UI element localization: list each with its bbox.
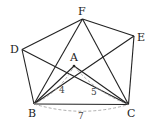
geometry-diagram: 457 ABCDEF	[0, 0, 152, 128]
segment-AC	[74, 66, 129, 105]
segment-DB	[22, 50, 34, 105]
point-label-c: C	[127, 107, 135, 120]
segment-BC	[34, 104, 129, 105]
length-label-BC: 7	[78, 111, 84, 121]
solid-segments	[22, 19, 134, 105]
point-a-dot	[73, 65, 76, 68]
point-label-a: A	[69, 51, 79, 64]
segment-AB	[34, 66, 74, 104]
dashed-length-arcs: 457	[34, 66, 129, 121]
length-label-AC: 5	[91, 87, 97, 97]
point-label-b: B	[28, 107, 36, 120]
segment-EC	[129, 36, 135, 105]
segment-EB	[34, 36, 134, 104]
length-label-BA: 4	[59, 85, 65, 95]
point-label-e: E	[137, 31, 145, 44]
point-label-f: F	[78, 5, 86, 18]
point-label-d: D	[10, 43, 19, 56]
